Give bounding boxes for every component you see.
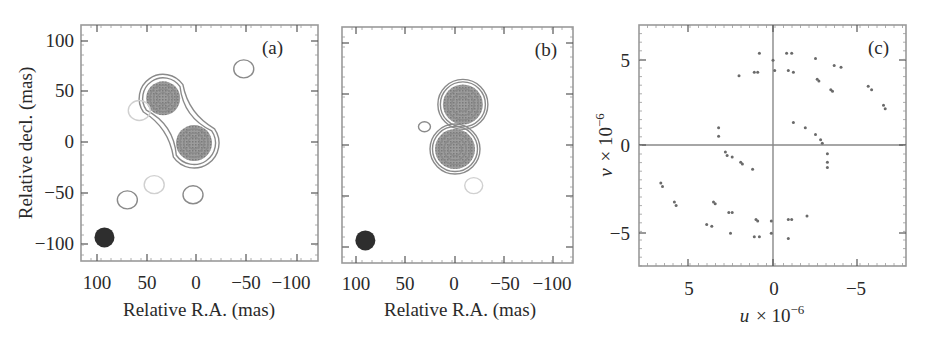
component-core [443, 84, 483, 124]
uv-point [819, 138, 822, 141]
low-level-contour [117, 191, 137, 209]
uv-point [751, 168, 754, 171]
beam-ellipse [355, 230, 375, 250]
low-level-contour [183, 186, 203, 204]
uv-point [831, 90, 834, 93]
uv-point [729, 232, 732, 235]
panel-a-ytick: 0 [65, 131, 75, 152]
panel-c: (c) 5 0 −5 5 0 −5 u × 10−6 v × 10−6 [592, 25, 906, 326]
u-symbol: u [740, 305, 750, 326]
uv-point [673, 201, 676, 204]
panel-a-ytick: −50 [44, 182, 74, 203]
v-symbol: v [595, 168, 616, 177]
uv-point [770, 220, 773, 223]
uv-point [884, 107, 887, 110]
uv-point [714, 202, 717, 205]
panel-b-xtick: 100 [342, 273, 371, 294]
panel-c-xtick: 0 [769, 278, 779, 299]
beam-ellipse [94, 227, 114, 247]
uv-point [867, 85, 870, 88]
uv-point [826, 166, 829, 169]
panel-c-ylabel-text: × 10 [595, 127, 616, 166]
panel-c-ylabel: v × 10−6 [592, 113, 616, 177]
panel-b-contours [355, 79, 488, 250]
uv-point [727, 211, 730, 214]
uv-point [675, 204, 678, 207]
uv-point [705, 223, 708, 226]
uv-point [817, 79, 820, 82]
uv-point [804, 126, 807, 129]
panel-c-xtick: −5 [846, 278, 866, 299]
panel-b-xtick: −50 [490, 273, 520, 294]
component-core [146, 81, 180, 115]
panel-a-xtick: −50 [231, 272, 261, 293]
panel-c-xtick: 5 [684, 278, 694, 299]
uv-point [772, 59, 775, 62]
uv-point [870, 88, 873, 91]
uv-point [806, 214, 809, 217]
panel-a: (a) 100 50 0 −50 −100 100 50 0 −50 −100 … [15, 25, 318, 321]
uv-point [826, 152, 829, 155]
uv-point [717, 135, 720, 138]
uv-point [741, 163, 744, 166]
uv-point [821, 142, 824, 145]
panel-a-xtick: −100 [271, 272, 310, 293]
uv-point [661, 185, 664, 188]
uv-point [814, 133, 817, 136]
uv-point [717, 126, 720, 129]
component-core [435, 129, 475, 169]
uv-point [731, 156, 734, 159]
uv-point [814, 57, 817, 60]
panel-b-tag: (b) [535, 39, 557, 61]
panel-a-xtick: 50 [138, 272, 157, 293]
panel-a-ytick: 50 [55, 80, 74, 101]
uv-point [659, 182, 662, 185]
uv-point [758, 52, 761, 55]
uv-point [753, 235, 756, 238]
panel-a-ylabel: Relative decl. (mas) [15, 67, 37, 219]
uv-point [773, 69, 776, 72]
uv-point [787, 237, 790, 240]
uv-point [833, 64, 836, 67]
panel-c-xlabel-text: × 10 [751, 305, 790, 326]
panel-c-ylabel-exponent: −6 [592, 113, 607, 127]
panel-c-ytick: 5 [621, 50, 631, 71]
panel-a-tag: (a) [262, 37, 283, 59]
panel-c-tag: (c) [868, 37, 889, 59]
uv-point [731, 211, 734, 214]
uv-point [726, 154, 729, 157]
component-core [176, 125, 212, 161]
low-level-contour [418, 122, 430, 132]
low-level-contour [144, 176, 164, 194]
figure-canvas: (a) 100 50 0 −50 −100 100 50 0 −50 −100 … [0, 0, 931, 340]
uv-point [738, 74, 741, 77]
uv-point [756, 71, 759, 74]
uv-point [710, 225, 713, 228]
panel-b-xlabel: Relative R.A. (mas) [384, 299, 536, 321]
panel-a-xtick: 0 [191, 272, 201, 293]
panel-b-xtick: 0 [449, 273, 459, 294]
panel-a-ytick: −100 [35, 233, 74, 254]
panel-a-xtick: 100 [83, 272, 112, 293]
uv-point [790, 52, 793, 55]
uv-point [787, 69, 790, 72]
uv-point [724, 150, 727, 153]
uv-point [840, 66, 843, 69]
uv-point [826, 161, 829, 164]
uv-point [770, 232, 773, 235]
uv-point [753, 71, 756, 74]
panel-a-ytick: 100 [46, 30, 75, 51]
uv-point [790, 218, 793, 221]
uv-point [758, 235, 761, 238]
panel-c-xlabel: u × 10−6 [740, 302, 805, 326]
uv-point [756, 220, 759, 223]
panel-a-contours [94, 60, 253, 247]
panel-a-xlabel: Relative R.A. (mas) [123, 299, 275, 321]
uv-point [882, 104, 885, 107]
panel-c-xlabel-exponent: −6 [790, 302, 804, 317]
uv-point [787, 218, 790, 221]
panel-c-ytick: 0 [621, 135, 631, 156]
low-level-contour [234, 60, 254, 78]
uv-point [785, 52, 788, 55]
uv-point [792, 121, 795, 124]
